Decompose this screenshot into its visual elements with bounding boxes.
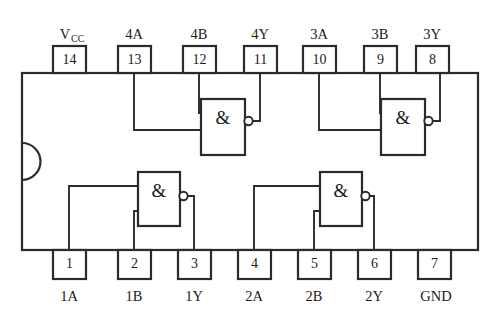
pin-label-gnd: GND [420, 288, 451, 304]
wire-2y [368, 196, 374, 250]
bottom-pin-boxes: 1 2 3 4 5 6 7 [53, 250, 451, 279]
pin-number-12: 12 [193, 52, 207, 67]
ic-notch-icon [22, 143, 40, 180]
wire-4a [134, 73, 201, 130]
gate-1[interactable]: & [138, 172, 188, 226]
wire-3a [319, 73, 381, 130]
pin-number-11: 11 [254, 52, 267, 67]
gate-4[interactable]: & [201, 99, 253, 155]
pin-label-4y: 4Y [251, 26, 269, 42]
pin-label-1a: 1A [60, 288, 78, 304]
gate-1-symbol: & [152, 180, 167, 201]
wire-1a [69, 186, 138, 250]
pin-number-7: 7 [431, 256, 438, 271]
pin-number-4: 4 [251, 256, 258, 271]
pin-label-vcc: V CC [60, 26, 85, 44]
gate-1-inversion-bubble-icon [179, 192, 187, 200]
schematic-canvas: 14 13 12 11 10 9 8 V CC 4A 4B 4Y 3A 3B 3… [0, 0, 495, 329]
pin-number-14: 14 [63, 52, 77, 67]
gate-2-inversion-bubble-icon [361, 192, 369, 200]
gate-3[interactable]: & [381, 99, 433, 155]
pin-number-1: 1 [66, 256, 73, 271]
pin-label-4b: 4B [191, 26, 208, 42]
gate-4-inversion-bubble-icon [244, 117, 252, 125]
pin-number-13: 13 [128, 52, 142, 67]
top-pin-labels: V CC 4A 4B 4Y 3A 3B 3Y [60, 26, 442, 44]
pin-number-9: 9 [377, 52, 384, 67]
pin-number-6: 6 [371, 256, 378, 271]
wire-2a [254, 186, 320, 250]
pin-label-1y: 1Y [185, 288, 203, 304]
gate-3-inversion-bubble-icon [424, 117, 432, 125]
gate-2[interactable]: & [320, 172, 370, 226]
wire-3y [431, 73, 440, 121]
pin-label-vcc-main: V [60, 26, 71, 42]
pin-label-2a: 2A [245, 288, 263, 304]
pin-label-2b: 2B [306, 288, 323, 304]
pin-label-3y: 3Y [423, 26, 441, 42]
pin-label-vcc-sub: CC [71, 33, 85, 44]
ic-pinout-diagram: 14 13 12 11 10 9 8 V CC 4A 4B 4Y 3A 3B 3… [0, 0, 495, 329]
pin-number-8: 8 [429, 52, 436, 67]
pin-number-3: 3 [191, 256, 198, 271]
gate-3-symbol: & [396, 107, 411, 128]
pin-number-10: 10 [313, 52, 327, 67]
pin-label-1b: 1B [126, 288, 143, 304]
pin-label-2y: 2Y [365, 288, 383, 304]
gate-4-symbol: & [216, 107, 231, 128]
pin-number-5: 5 [311, 256, 318, 271]
bottom-pin-labels: 1A 1B 1Y 2A 2B 2Y GND [60, 288, 452, 304]
pin-label-4a: 4A [125, 26, 143, 42]
wire-4y [251, 73, 260, 121]
wire-1y [186, 196, 194, 250]
pin-label-3b: 3B [372, 26, 389, 42]
gate-2-symbol: & [334, 180, 349, 201]
pin-number-2: 2 [131, 256, 138, 271]
top-pin-boxes: 14 13 12 11 10 9 8 [53, 46, 449, 73]
pin-label-3a: 3A [310, 26, 328, 42]
